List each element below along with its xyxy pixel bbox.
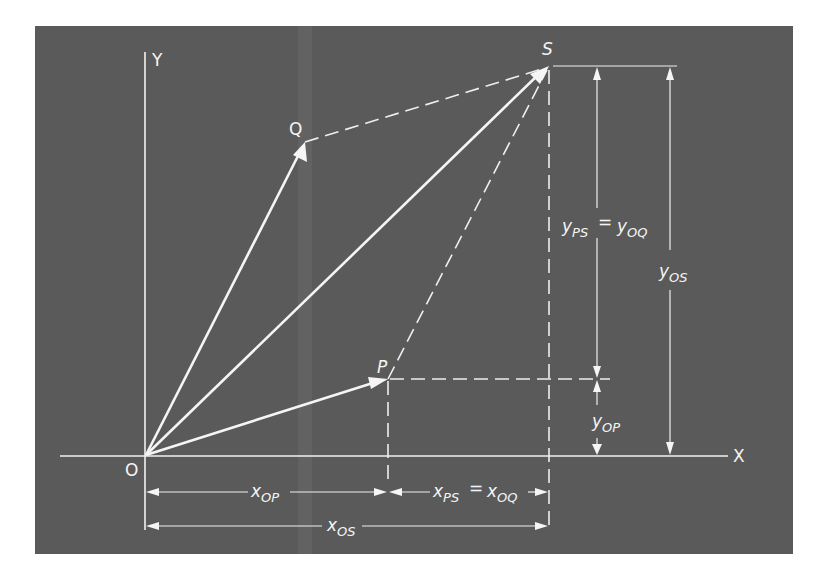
point-label-q: Q — [289, 119, 302, 139]
point-label-s: S — [542, 39, 553, 59]
diagram-panel — [35, 26, 793, 554]
equals-sign-y: = — [598, 212, 612, 232]
panel-shading-band — [298, 26, 312, 554]
vector-addition-diagram: Y X O Q S P yPS = yOQ — [0, 0, 822, 583]
origin-label: O — [125, 460, 138, 480]
point-label-p: P — [377, 357, 388, 377]
x-axis-label: X — [733, 446, 745, 466]
equals-sign-x: = — [469, 478, 483, 498]
y-axis-label: Y — [151, 50, 163, 70]
